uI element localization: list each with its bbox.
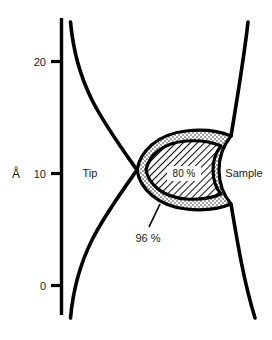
tip-profile-upper-curve xyxy=(71,22,138,170)
tip-region-label: Tip xyxy=(83,167,98,179)
contour-80-label: 80 % xyxy=(173,168,196,179)
contour-96-callout: 96 % xyxy=(135,204,160,244)
tip-sample-junction-diagram: 20 10 0 Å 80 % Tip Sample xyxy=(0,0,272,340)
y-axis-tick-label-20: 20 xyxy=(34,56,46,68)
contour-96-leader-line xyxy=(149,204,160,227)
tip-profile-lower-curve xyxy=(71,170,138,318)
contour-80-label-group: 80 % xyxy=(167,166,201,181)
sample-profile-upper-curve xyxy=(231,22,248,136)
figure-root: 20 10 0 Å 80 % Tip Sample xyxy=(0,0,272,340)
y-axis-unit-label: Å xyxy=(12,166,20,181)
sample-region-label: Sample xyxy=(225,167,262,179)
y-axis-tick-label-0: 0 xyxy=(40,280,46,292)
y-axis-tick-label-10: 10 xyxy=(34,168,46,180)
sample-profile-lower-curve xyxy=(231,204,255,318)
contour-96-label: 96 % xyxy=(135,232,160,244)
tip-electrode xyxy=(71,22,138,318)
y-axis: 20 10 0 Å xyxy=(12,18,62,315)
